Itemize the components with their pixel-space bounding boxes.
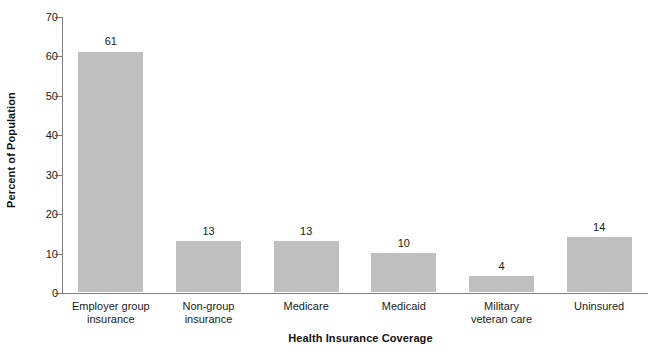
bar xyxy=(176,241,241,292)
x-axis-category-label-line: Medicare xyxy=(254,300,358,313)
x-axis-category-label-line: Non-group xyxy=(157,300,261,313)
y-axis-tick-label: 10 xyxy=(46,246,58,262)
y-axis-tick-label: 40 xyxy=(46,127,58,143)
y-axis-title: Percent of Population xyxy=(0,0,22,300)
x-axis-category-label: Medicaid xyxy=(352,300,456,313)
x-axis-category-label-line: insurance xyxy=(59,313,163,326)
bar-value-label: 10 xyxy=(374,237,434,250)
x-axis-category-label: Uninsured xyxy=(547,300,651,313)
x-axis-title-text: Health Insurance Coverage xyxy=(288,332,432,344)
bar-value-label: 14 xyxy=(569,221,629,234)
x-axis-category-label-line: insurance xyxy=(157,313,261,326)
bar-chart: Percent of Population 010203040506070 61… xyxy=(0,0,655,352)
x-axis-category-label-line: Military xyxy=(450,300,554,313)
bar xyxy=(469,276,534,292)
x-axis-category-label: Employer groupinsurance xyxy=(59,300,163,326)
bar-value-label: 61 xyxy=(81,35,141,48)
plot-area: 010203040506070 61131310414 xyxy=(62,17,648,293)
y-axis-tick-label: 20 xyxy=(46,206,58,222)
y-axis-tick-label: 70 xyxy=(46,9,58,25)
bar xyxy=(371,253,436,292)
y-axis-title-text: Percent of Population xyxy=(5,92,17,208)
bar-value-label: 13 xyxy=(276,225,336,238)
x-axis-category-label: Militaryveteran care xyxy=(450,300,554,326)
x-axis-line xyxy=(62,293,648,294)
y-axis-tick-label: 30 xyxy=(46,167,58,183)
bar-value-label: 13 xyxy=(179,225,239,238)
bar xyxy=(274,241,339,292)
bar-value-label: 4 xyxy=(472,260,532,273)
x-axis-category-label: Medicare xyxy=(254,300,358,313)
x-axis-category-label-line: veteran care xyxy=(450,313,554,326)
x-axis-category-label: Non-groupinsurance xyxy=(157,300,261,326)
x-axis-category-label-line: Employer group xyxy=(59,300,163,313)
x-axis-category-label-line: Medicaid xyxy=(352,300,456,313)
bar xyxy=(567,237,632,292)
x-axis-category-label-line: Uninsured xyxy=(547,300,651,313)
x-axis-title: Health Insurance Coverage xyxy=(0,332,655,344)
bar xyxy=(78,52,143,293)
y-axis-tick-label: 60 xyxy=(46,48,58,64)
y-axis-tick-label: 0 xyxy=(52,285,58,301)
y-axis-tick-label: 50 xyxy=(46,88,58,104)
y-axis-line xyxy=(62,17,63,294)
